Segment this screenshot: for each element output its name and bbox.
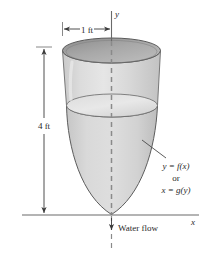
water-tank-figure: y x 1 ft 4 ft y = f(x) or x = g (0, 0, 204, 259)
water-flow-label: Water flow (118, 223, 159, 233)
width-dimension: 1 ft (63, 22, 111, 36)
height-dimension-label: 4 ft (38, 121, 51, 131)
figure-canvas: y x 1 ft 4 ft y = f(x) or x = g (0, 0, 204, 259)
curve-label-function-of-x: y = f(x) (161, 161, 189, 171)
water-flow-annotation: Water flow (112, 216, 159, 252)
vessel-highlight (70, 62, 72, 100)
curve-label-function-of-y: x = g(y) (160, 185, 190, 195)
y-axis-label: y (114, 9, 119, 19)
height-dimension: 4 ft (36, 47, 52, 213)
curve-label-or: or (172, 173, 180, 183)
x-axis-label: x (190, 217, 195, 227)
width-dimension-label: 1 ft (81, 25, 94, 35)
